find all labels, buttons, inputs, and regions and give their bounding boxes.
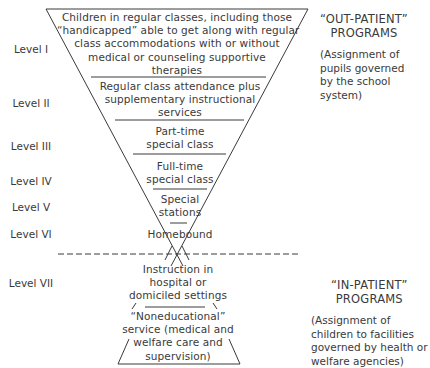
level-5-text: Special stations <box>140 193 220 219</box>
level-3-text: Part-time special class <box>130 125 230 151</box>
desc-line: children to facilities <box>311 328 428 342</box>
text-line: Instruction in <box>120 263 236 276</box>
lower-left-mid-stub <box>132 303 136 309</box>
heading-line: PROGRAMS <box>320 26 408 40</box>
level-label-2: Level II <box>6 97 56 109</box>
level-1-text: Children in regular classes, including t… <box>57 11 297 77</box>
desc-line: (Assignment of <box>311 314 428 328</box>
text-line: Part-time <box>130 125 230 138</box>
text-line: special class <box>130 173 230 186</box>
text-line: special class <box>130 138 230 151</box>
level-2-text: Regular class attendance plus supplement… <box>95 80 265 120</box>
desc-line: by the school <box>320 75 408 89</box>
in-patient-description: (Assignment of children to facilities go… <box>311 314 428 368</box>
text-line: therapies <box>57 64 297 77</box>
text-line: Regular class attendance plus <box>95 80 265 93</box>
text-line: medical or counseling supportive <box>57 51 297 64</box>
text-line: Homebound <box>130 228 230 241</box>
level-4-text: Full-time special class <box>130 160 230 186</box>
text-line: domiciled settings <box>120 289 236 302</box>
out-patient-annotation: “OUT-PATIENT” PROGRAMS (Assignment of pu… <box>320 12 408 102</box>
text-line: hospital or <box>120 276 236 289</box>
heading-line: PROGRAMS <box>311 292 428 306</box>
level-label-7: Level VII <box>6 277 56 289</box>
level-label-5: Level V <box>6 201 56 213</box>
heading-line: “IN-PATIENT” <box>311 278 428 292</box>
text-line: “Noneducational” <box>110 310 246 323</box>
level-label-3: Level III <box>6 140 56 152</box>
desc-line: (Assignment of <box>320 48 408 62</box>
desc-line: welfare agencies) <box>311 355 428 368</box>
level-6-text: Homebound <box>130 228 230 241</box>
text-line: supplementary instructional <box>95 93 265 106</box>
desc-line: governed by health or <box>311 341 428 355</box>
level-label-1: Level I <box>6 43 56 55</box>
text-line: class accommodations with or without <box>57 37 297 50</box>
text-line: Special <box>140 193 220 206</box>
desc-line: pupils governed <box>320 62 408 76</box>
text-line: stations <box>140 206 220 219</box>
text-line: welfare care and <box>110 336 246 349</box>
text-line: services <box>95 106 265 119</box>
text-line: Full-time <box>130 160 230 173</box>
out-patient-heading: “OUT-PATIENT” PROGRAMS <box>320 12 408 40</box>
in-patient-heading: “IN-PATIENT” PROGRAMS <box>311 278 428 306</box>
lower-right-upper-stub <box>182 246 189 260</box>
level-label-6: Level VI <box>6 228 56 240</box>
noneducational-text: “Noneducational” service (medical and we… <box>110 310 246 363</box>
text-line: “handicapped” able to get along with reg… <box>57 24 297 37</box>
desc-line: system) <box>320 89 408 103</box>
text-line: service (medical and <box>110 323 246 336</box>
level-label-4: Level IV <box>6 175 56 187</box>
text-line: Children in regular classes, including t… <box>57 11 297 24</box>
out-patient-description: (Assignment of pupils governed by the sc… <box>320 48 408 102</box>
in-patient-annotation: “IN-PATIENT” PROGRAMS (Assignment of chi… <box>311 278 428 368</box>
heading-line: “OUT-PATIENT” <box>320 12 408 26</box>
level-7-text: Instruction in hospital or domiciled set… <box>120 263 236 303</box>
lower-left-upper-stub <box>165 246 172 260</box>
lower-right-mid-stub <box>213 303 217 309</box>
text-line: supervision) <box>110 350 246 363</box>
